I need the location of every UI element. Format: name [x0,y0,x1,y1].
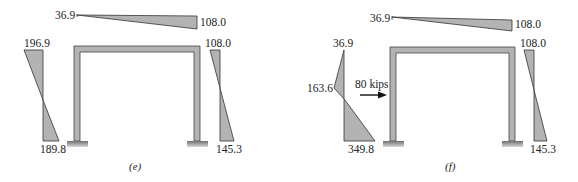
right-column-moment-diagram [210,50,220,88]
right-column-moment-diagram [524,50,534,90]
right-column-moment-diagram-lower [534,90,547,141]
fixed-support-left [67,141,88,147]
right-column-bottom-value: 145.3 [530,143,556,155]
beam-left-value: 36.9 [370,12,390,24]
fixed-support-left [383,141,404,147]
left-column-top-value: 196.9 [24,37,50,49]
left-column-mid-value: 163.6 [307,82,333,94]
left-column-top-value: 36.9 [333,37,353,49]
frame [390,47,515,141]
load-label: 80 kips [355,78,389,91]
right-column-moment-diagram-lower [220,88,234,141]
left-column-moment-diagram [24,50,43,100]
left-column-bottom-value: 349.8 [348,143,374,155]
beam-left-value: 36.9 [55,9,75,21]
fixed-support-right [502,141,523,147]
right-column-bottom-value: 145.3 [216,143,242,155]
moment-diagrams: 36.9 108.0 196.9 189.8 108.0 145.3 (e) 3… [0,0,578,182]
load-arrow-icon [360,92,387,99]
beam-moment-diagram [392,17,512,31]
right-column-top-value: 108.0 [205,37,231,49]
fixed-support-right [187,141,208,147]
beam-moment-diagram [77,15,197,29]
panel-f: 36.9 108.0 80 kips 36.9 163.6 349.8 108.… [307,12,556,173]
caption-f: (f) [445,160,456,173]
frame [74,46,200,141]
left-column-moment-diagram-lower [43,100,59,141]
panel-e: 36.9 108.0 196.9 189.8 108.0 145.3 (e) [24,9,242,173]
right-column-top-value: 108.0 [520,37,546,49]
left-column-bottom-value: 189.8 [40,143,66,155]
beam-right-value: 108.0 [200,16,226,28]
beam-right-value: 108.0 [515,18,541,30]
caption-e: (e) [129,160,142,173]
